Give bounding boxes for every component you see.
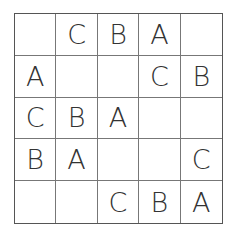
grid-cell-r4-c1[interactable] (56, 181, 97, 223)
grid-cell-r2-c2[interactable]: A (98, 98, 139, 140)
grid-cell-r4-c2[interactable]: C (98, 181, 139, 223)
grid-cell-r0-c3[interactable]: A (139, 14, 180, 56)
grid-cell-r1-c1[interactable] (56, 56, 97, 98)
grid-cell-r1-c3[interactable]: C (139, 56, 180, 98)
grid-cell-r4-c3[interactable]: B (139, 181, 180, 223)
grid-cell-r2-c3[interactable] (139, 98, 180, 140)
grid-cell-r0-c1[interactable]: C (56, 14, 97, 56)
grid-cell-r1-c2[interactable] (98, 56, 139, 98)
grid-cell-r2-c1[interactable]: B (56, 98, 97, 140)
grid-cell-r3-c3[interactable] (139, 139, 180, 181)
grid-cell-r0-c2[interactable]: B (98, 14, 139, 56)
grid-cell-r4-c0[interactable] (15, 181, 56, 223)
grid-cell-r2-c4[interactable] (181, 98, 222, 140)
grid-cell-r3-c1[interactable]: A (56, 139, 97, 181)
grid-cell-r2-c0[interactable]: C (15, 98, 56, 140)
grid-cell-r0-c0[interactable] (15, 14, 56, 56)
grid-cell-r0-c4[interactable] (181, 14, 222, 56)
grid-cell-r3-c2[interactable] (98, 139, 139, 181)
grid-cell-r4-c4[interactable]: A (181, 181, 222, 223)
puzzle-grid: CBAACBCBABACCBA (14, 13, 223, 224)
grid-cell-r1-c4[interactable]: B (181, 56, 222, 98)
grid-cell-r1-c0[interactable]: A (15, 56, 56, 98)
grid-cell-r3-c4[interactable]: C (181, 139, 222, 181)
grid-cell-r3-c0[interactable]: B (15, 139, 56, 181)
